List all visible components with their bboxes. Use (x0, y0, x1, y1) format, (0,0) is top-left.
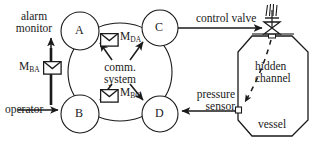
node-label-c: C (155, 21, 163, 34)
message-label-mbc: MBC (120, 86, 140, 100)
node-label-a: A (75, 24, 84, 37)
vessel-label: vessel (258, 118, 286, 130)
mba-subscript: BA (29, 65, 39, 74)
control-valve-label: control valve (196, 12, 256, 24)
message-label-mda: MDA (120, 30, 141, 44)
hidden-channel-label: hidden channel (255, 60, 291, 84)
diagram-canvas: alarm monitor operator A B C D comm. sys… (0, 0, 316, 145)
mbc-subscript: BC (130, 91, 140, 100)
comm-system-line1: comm. (96, 61, 144, 73)
message-label-mba: MBA (19, 60, 40, 74)
pressure-sensor-label: pressure sensor (185, 88, 235, 112)
pressure-sensor-line1: pressure (185, 88, 235, 100)
alarm-monitor-label: alarm monitor (8, 10, 60, 34)
envelope-icon[interactable] (43, 61, 62, 75)
operator-label: operator (5, 103, 43, 115)
pressure-sensor-port-icon[interactable] (236, 107, 242, 113)
mbc-base: M (120, 86, 130, 98)
hidden-channel-line2: channel (255, 72, 291, 84)
node-label-b: B (75, 107, 83, 120)
alarm-monitor-line1: alarm (8, 10, 60, 22)
comm-system-label: comm. system (96, 61, 144, 85)
comm-system-line2: system (96, 73, 144, 85)
pressure-sensor-line2: sensor (185, 100, 235, 112)
mda-base: M (120, 30, 130, 42)
node-label-d: D (155, 107, 164, 120)
envelope-icon[interactable] (100, 89, 119, 103)
mda-subscript: DA (130, 35, 141, 44)
alarm-monitor-line2: monitor (8, 22, 60, 34)
mba-base: M (19, 60, 29, 72)
envelope-icon[interactable] (100, 33, 119, 47)
message-mda[interactable]: MDA (100, 30, 119, 48)
message-mbc[interactable]: MBC (100, 86, 119, 104)
hidden-channel-line1: hidden (255, 60, 291, 72)
